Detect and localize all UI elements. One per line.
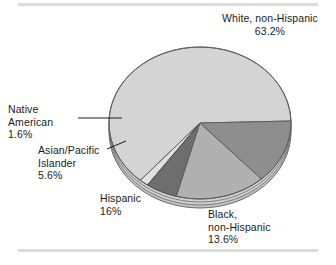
label-asian-pacific-islander-text-line2: Islander [38,157,99,170]
label-asian-pacific-islander-text-line1: Asian/Pacific [38,144,99,157]
pie-chart-figure: White, non-Hispanic 63.2% Native America… [0,0,336,265]
label-black-non-hispanic-text-line1: Black, [208,208,270,221]
label-white-non-hispanic: White, non-Hispanic 63.2% [222,12,318,37]
pie-slices [109,47,291,199]
label-native-american-text-line2: American [8,116,53,129]
label-black-non-hispanic: Black, non-Hispanic 13.6% [208,208,270,246]
label-native-american: Native American 1.6% [8,103,53,141]
label-hispanic-text: Hispanic [100,192,141,205]
label-hispanic: Hispanic 16% [100,192,141,217]
label-native-american-value: 1.6% [8,128,53,141]
label-native-american-text-line1: Native [8,103,53,116]
label-black-non-hispanic-value: 13.6% [208,233,270,246]
label-black-non-hispanic-text-line2: non-Hispanic [208,221,270,234]
label-asian-pacific-islander-value: 5.6% [38,169,99,182]
label-white-non-hispanic-value: 63.2% [222,25,318,38]
label-asian-pacific-islander: Asian/Pacific Islander 5.6% [38,144,99,182]
label-hispanic-value: 16% [100,205,141,218]
label-white-non-hispanic-text: White, non-Hispanic [222,12,318,25]
